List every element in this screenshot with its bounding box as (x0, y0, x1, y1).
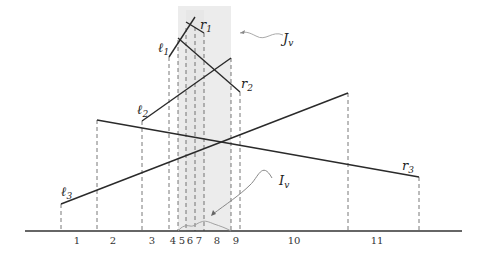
segment-number: 8 (214, 235, 220, 246)
segment-number: 6 (187, 235, 193, 246)
jv-arrowhead-icon (240, 30, 245, 34)
interval-diagram: ℓ1 r1 ℓ2 r2 ℓ3 r3 Jv Iv 1 2 3 4 5 6 7 8 … (0, 0, 483, 258)
segment-number: 9 (233, 235, 239, 246)
segment-number: 4 (170, 235, 176, 246)
segment-number-labels: 1 2 3 4 5 6 7 8 9 10 11 (74, 235, 384, 246)
label-jv: Jv (280, 31, 293, 48)
segment-number: 7 (196, 235, 202, 246)
segment-number: 2 (110, 235, 116, 246)
segment-number: 1 (74, 235, 80, 246)
segment-number: 10 (288, 235, 301, 246)
jv-pointer-arrow (240, 32, 283, 38)
dashed-guides (61, 27, 419, 231)
label-r2: r2 (241, 76, 253, 93)
label-r3: r3 (402, 158, 414, 175)
label-l3: ℓ3 (61, 184, 72, 201)
segment-number: 5 (179, 235, 185, 246)
label-iv: Iv (278, 173, 289, 190)
segment-number: 3 (149, 235, 155, 246)
label-l1: ℓ1 (158, 40, 169, 57)
label-l2: ℓ2 (137, 102, 148, 119)
segment-number: 11 (371, 235, 384, 246)
